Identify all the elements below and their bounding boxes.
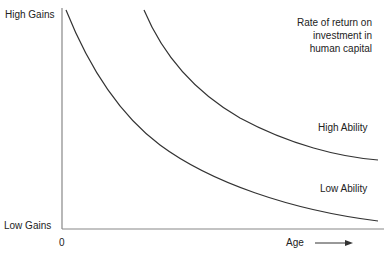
- high-ability-label: High Ability: [318, 122, 367, 134]
- x-origin-label: 0: [59, 237, 65, 249]
- x-axis-label: Age: [286, 237, 304, 249]
- y-label-low-gains: Low Gains: [4, 220, 51, 232]
- y-label-high-gains: High Gains: [5, 9, 54, 21]
- low-ability-label: Low Ability: [320, 183, 367, 195]
- chart-title: Rate of return on investment in human ca…: [292, 16, 372, 55]
- arrowhead-icon: [345, 240, 353, 246]
